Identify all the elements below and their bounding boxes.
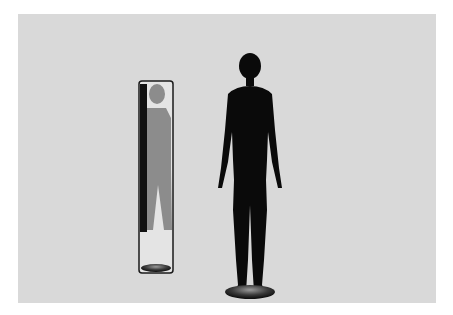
mannequin-base bbox=[225, 285, 275, 299]
scene-illustration bbox=[0, 0, 453, 315]
mirror-edge bbox=[140, 84, 147, 232]
mirror bbox=[139, 81, 173, 273]
mannequin bbox=[218, 53, 282, 292]
mirror-base bbox=[141, 264, 171, 272]
